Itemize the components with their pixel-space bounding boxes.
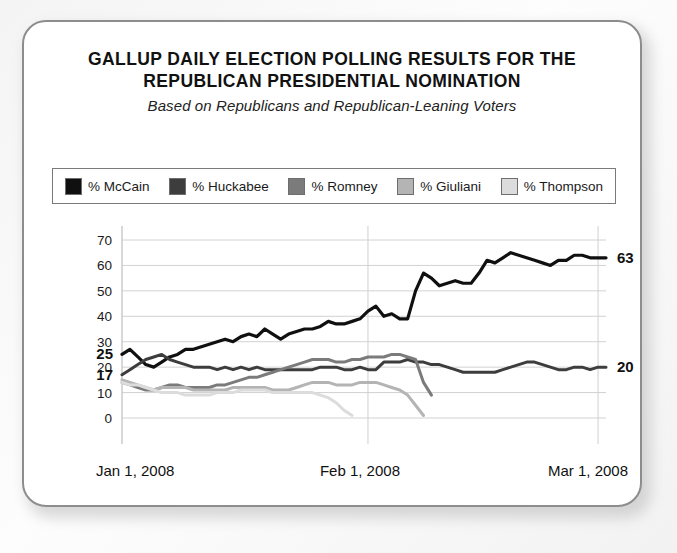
- chart-legend: % McCain % Huckabee % Romney % Giuliani …: [52, 168, 616, 204]
- legend-swatch-romney: [288, 178, 305, 195]
- x-tick-label: Feb 1, 2008: [320, 462, 400, 479]
- y-tick-label: 70: [97, 233, 112, 248]
- legend-swatch-mccain: [65, 178, 82, 195]
- value-annotation: 20: [617, 358, 634, 375]
- x-tick-label: Jan 1, 2008: [96, 462, 174, 479]
- chart-card: GALLUP DAILY ELECTION POLLING RESULTS FO…: [22, 20, 642, 507]
- chart-header: GALLUP DAILY ELECTION POLLING RESULTS FO…: [24, 48, 640, 114]
- legend-swatch-giuliani: [397, 178, 414, 195]
- chart-subtitle: Based on Republicans and Republican-Lean…: [24, 97, 640, 114]
- y-tick-label: 40: [97, 309, 112, 324]
- legend-item-giuliani[interactable]: % Giuliani: [397, 178, 481, 195]
- value-annotation: 17: [96, 366, 113, 383]
- series-line-mccain: [122, 253, 606, 367]
- value-annotation: 63: [617, 249, 634, 266]
- chart-plot-area: 01020304050607025176320Jan 1, 2008Feb 1,…: [34, 218, 634, 488]
- y-tick-label: 50: [97, 284, 112, 299]
- screenshot-page: GALLUP DAILY ELECTION POLLING RESULTS FO…: [0, 0, 677, 553]
- legend-swatch-thompson: [501, 178, 518, 195]
- value-annotation: 25: [96, 345, 113, 362]
- line-chart: 01020304050607025176320Jan 1, 2008Feb 1,…: [34, 218, 634, 488]
- y-tick-label: 0: [104, 411, 112, 426]
- chart-title-line-2: REPUBLICAN PRESIDENTIAL NOMINATION: [24, 70, 640, 92]
- legend-item-romney[interactable]: % Romney: [288, 178, 377, 195]
- y-tick-label: 10: [97, 386, 112, 401]
- legend-item-thompson[interactable]: % Thompson: [501, 178, 603, 195]
- legend-item-mccain[interactable]: % McCain: [65, 178, 150, 195]
- legend-label-giuliani: % Giuliani: [420, 179, 481, 194]
- y-tick-label: 60: [97, 258, 112, 273]
- legend-label-huckabee: % Huckabee: [192, 179, 269, 194]
- legend-label-thompson: % Thompson: [524, 179, 603, 194]
- legend-item-huckabee[interactable]: % Huckabee: [169, 178, 269, 195]
- legend-label-mccain: % McCain: [88, 179, 150, 194]
- chart-title-line-1: GALLUP DAILY ELECTION POLLING RESULTS FO…: [24, 48, 640, 70]
- x-tick-label: Mar 1, 2008: [548, 462, 628, 479]
- legend-label-romney: % Romney: [311, 179, 377, 194]
- legend-swatch-huckabee: [169, 178, 186, 195]
